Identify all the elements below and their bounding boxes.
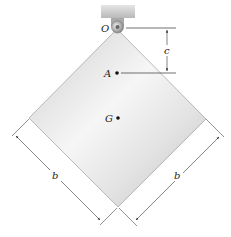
pivot-pin (111, 18, 124, 33)
label-g: G (105, 113, 113, 124)
label-b-left: b (52, 170, 58, 181)
label-o: O (101, 23, 109, 34)
diagram-canvas: O c A G b b (0, 0, 231, 237)
label-c: c (164, 45, 170, 56)
label-a: A (103, 68, 111, 79)
label-b-right: b (174, 170, 180, 181)
ceiling-support (101, 5, 135, 18)
